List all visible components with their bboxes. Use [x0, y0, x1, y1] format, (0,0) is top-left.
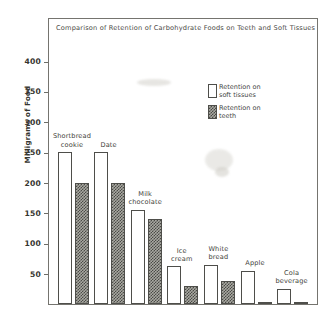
- category-label: Colabeverage: [264, 269, 320, 286]
- bar-soft-tissues: [94, 152, 108, 304]
- bar-teeth: [294, 302, 308, 305]
- y-axis-tick-label: 200: [25, 179, 41, 189]
- category-label: Apple: [227, 259, 283, 267]
- bar-soft-tissues: [131, 210, 145, 304]
- y-axis-tick-label: 250: [25, 148, 41, 158]
- category-label-line: White: [190, 245, 246, 253]
- bar-teeth: [258, 302, 272, 305]
- bar-soft-tissues: [58, 152, 72, 304]
- y-axis-tick: 100: [0, 239, 48, 249]
- y-axis-tick-label: 350: [25, 87, 41, 97]
- y-axis-tick: 50: [0, 270, 48, 280]
- legend-label-soft-tissues: Retention on soft tissues: [219, 83, 261, 99]
- bar-soft-tissues: [241, 271, 255, 304]
- bar-chart: Milligrams of Food 400350300250200150100…: [0, 0, 330, 317]
- scan-smudge: [137, 79, 171, 86]
- category-label-line: Apple: [227, 259, 283, 267]
- category-label-line: Date: [81, 141, 137, 149]
- y-axis-tick: 350: [0, 87, 48, 97]
- legend-line: Retention on: [219, 83, 261, 91]
- y-axis-tick-label: 50: [30, 270, 41, 280]
- y-axis-tick: 200: [0, 179, 48, 189]
- category-label: Milkchocolate: [117, 190, 173, 207]
- category-label-line: Milk: [117, 190, 173, 198]
- y-axis-tick: 300: [0, 118, 48, 128]
- category-label: Date: [81, 141, 137, 149]
- bar-teeth: [75, 183, 89, 305]
- bar-soft-tissues: [167, 266, 181, 304]
- y-axis-tick-label: 150: [25, 209, 41, 219]
- y-axis-tick: 250: [0, 148, 48, 158]
- category-label-line: Shortbread: [44, 132, 100, 140]
- bar-soft-tissues: [277, 289, 291, 304]
- y-axis-tick: 400: [0, 57, 48, 67]
- category-label-line: chocolate: [117, 198, 173, 206]
- scan-smudge: [215, 167, 229, 177]
- category-label-line: beverage: [264, 277, 320, 285]
- bar-teeth: [221, 281, 235, 304]
- y-axis-tick-label: 100: [25, 239, 41, 249]
- chart-title: Comparison of Retention of Carbohydrate …: [56, 24, 315, 32]
- bar-teeth: [184, 286, 198, 304]
- legend-line: Retention on: [219, 104, 261, 112]
- legend-swatch-open-icon: [208, 84, 217, 98]
- legend-line: teeth: [219, 112, 261, 120]
- y-axis-tick-label: 300: [25, 118, 41, 128]
- y-axis-tick-label: 400: [25, 57, 41, 67]
- y-axis-tick: 150: [0, 209, 48, 219]
- bar-soft-tissues: [204, 265, 218, 304]
- legend-line: soft tissues: [219, 91, 261, 99]
- legend-label-teeth: Retention on teeth: [219, 104, 261, 120]
- legend-swatch-crosshatch-icon: [208, 105, 217, 119]
- category-label-line: Cola: [264, 269, 320, 277]
